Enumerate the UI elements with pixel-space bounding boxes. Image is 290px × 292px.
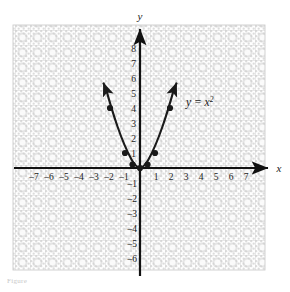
x-tick-4: 4 — [199, 172, 204, 182]
y-tick-2: 2 — [131, 134, 136, 144]
y-tick--5: –5 — [127, 239, 138, 249]
x-tick--6: –6 — [43, 172, 54, 182]
y-tick-1: 1 — [131, 149, 136, 159]
point-half — [144, 161, 150, 167]
y-tick--3: –3 — [127, 209, 138, 219]
point-neg2-4 — [107, 105, 113, 111]
point-neghalf — [129, 161, 135, 167]
svg-text:y = x2: y = x2 — [185, 95, 214, 110]
y-tick-7: 7 — [131, 59, 136, 69]
equation-annotation: y = x2 — [185, 95, 214, 110]
y-tick--4: –4 — [127, 224, 138, 234]
x-tick-5: 5 — [214, 172, 219, 182]
x-tick--4: –4 — [73, 172, 84, 182]
x-tick-7: 7 — [244, 172, 249, 182]
y-tick--1: –1 — [127, 179, 138, 189]
point-origin — [137, 165, 143, 171]
x-tick--2: –2 — [103, 172, 114, 182]
x-tick--5: –5 — [58, 172, 69, 182]
x-tick-1: 1 — [154, 172, 159, 182]
x-tick--3: –3 — [88, 172, 99, 182]
x-tick-6: 6 — [229, 172, 234, 182]
y-tick-4: 4 — [131, 104, 136, 114]
point-pos2-4 — [167, 105, 173, 111]
y-tick--6: –6 — [127, 254, 138, 264]
figure-caption: Figure — [7, 277, 127, 286]
y-tick-3: 3 — [131, 119, 136, 129]
point-pos1-1 — [152, 150, 158, 156]
x-tick-2: 2 — [169, 172, 174, 182]
x-tick-3: 3 — [184, 172, 189, 182]
figure-container: y x –7 –6 –5 –4 –3 –2 –1 1 2 3 4 5 6 7 8… — [0, 0, 290, 292]
y-tick-5: 5 — [131, 89, 136, 99]
x-tick--7: –7 — [28, 172, 39, 182]
x-axis-label: x — [276, 162, 282, 174]
equation-exponent: 2 — [210, 95, 214, 104]
point-neg1-1 — [122, 150, 128, 156]
y-tick-8: 8 — [131, 44, 136, 54]
coordinate-plane-graph: y x –7 –6 –5 –4 –3 –2 –1 1 2 3 4 5 6 7 8… — [0, 0, 290, 292]
y-tick-6: 6 — [131, 74, 136, 84]
equation-base: y = x — [185, 96, 211, 109]
y-tick--2: –2 — [127, 194, 138, 204]
y-axis-label: y — [137, 10, 143, 22]
